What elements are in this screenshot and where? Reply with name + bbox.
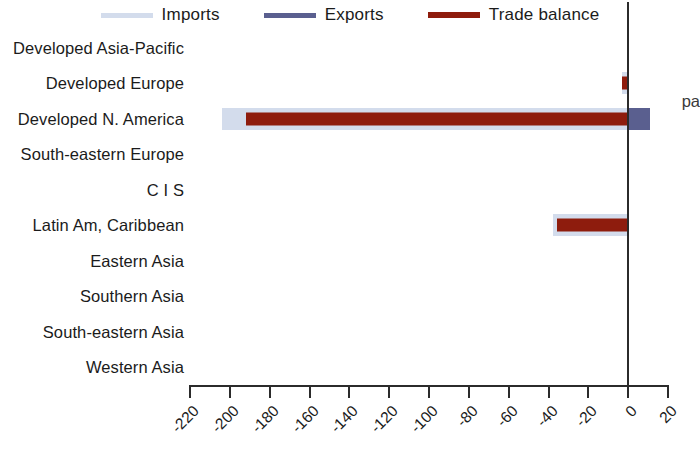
chart-row [0,314,700,350]
axis-tick [667,385,669,398]
chart-row [0,66,700,102]
axis-tick [468,385,470,398]
axis-tick [627,385,629,398]
chart-row [0,279,700,315]
axis-tick [428,385,430,398]
legend-item-imports: Imports [101,5,220,25]
axis-tick [309,385,311,398]
legend-swatch-exports [264,13,316,18]
axis-tick [189,385,191,398]
value-axis: -220-200-180-160-140-120-100-80-60-40-20… [0,385,700,463]
axis-tick [269,385,271,398]
bar-trade-balance [557,219,628,232]
bars-layer [0,30,700,385]
chart-legend: Imports Exports Trade balance [0,0,700,30]
axis-tick [229,385,231,398]
chart-row [0,101,700,137]
legend-swatch-trade-balance [428,12,480,18]
chart-row [0,208,700,244]
legend-item-trade-balance: Trade balance [428,5,600,25]
axis-tick [348,385,350,398]
legend-label-imports: Imports [162,5,220,25]
chart-row [0,30,700,66]
legend-label-exports: Exports [325,5,384,25]
cut-off-annotation: pa [682,92,700,111]
chart-row [0,350,700,386]
legend-item-exports: Exports [264,5,384,25]
axis-tick [388,385,390,398]
legend-label-trade-balance: Trade balance [489,5,600,25]
chart-row [0,172,700,208]
bar-exports [628,108,650,130]
axis-tick [587,385,589,398]
axis-tick [548,385,550,398]
chart-plot-area: Developed Asia-PacificDeveloped EuropeDe… [0,30,700,463]
bar-trade-balance [246,112,628,125]
axis-tick [508,385,510,398]
chart-row [0,243,700,279]
legend-swatch-imports [101,13,153,18]
zero-reference-line [627,2,629,387]
chart-row [0,137,700,173]
